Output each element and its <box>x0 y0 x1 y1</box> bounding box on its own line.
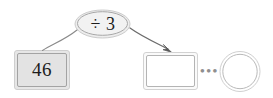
output-arrow-curve <box>130 28 168 49</box>
function-machine-diagram: 46 ÷ 3 ••• <box>0 0 273 98</box>
start-value-label: 46 <box>14 50 70 90</box>
input-arrow-curve <box>43 30 78 51</box>
operation-label: ÷ 3 <box>75 10 131 38</box>
continuation-ellipsis-label: ••• <box>200 62 218 80</box>
result-box-label <box>143 52 198 90</box>
final-circle-label <box>222 54 258 90</box>
